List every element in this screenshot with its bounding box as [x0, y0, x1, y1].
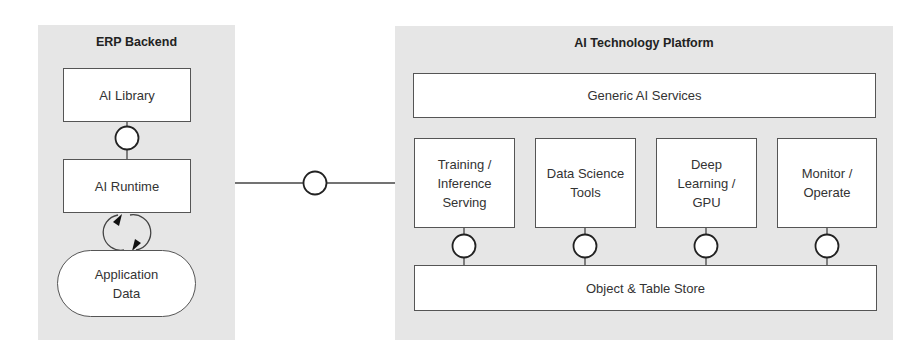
monitor-operate-box: Monitor / Operate [777, 138, 877, 228]
interface-circle-library [116, 127, 139, 150]
interface-circle-main [304, 172, 327, 195]
generic-ai-services-box: Generic AI Services [413, 73, 876, 118]
deep-learning-gpu-box: Deep Learning / GPU [656, 138, 757, 228]
ai-library-box: AI Library [63, 68, 191, 122]
object-table-store-box: Object & Table Store [414, 265, 877, 311]
training-inference-box: Training / Inference Serving [414, 138, 515, 228]
ai-runtime-box: AI Runtime [63, 159, 191, 213]
application-data-box: Application Data [57, 250, 196, 317]
data-science-tools-box: Data Science Tools [535, 138, 636, 228]
